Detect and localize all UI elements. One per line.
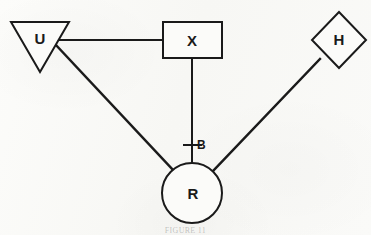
- figure-container: U X H R B FIGURE 11: [0, 0, 371, 235]
- edge-group: [55, 40, 320, 171]
- node-x-label: X: [184, 33, 200, 48]
- node-h-label: H: [331, 32, 347, 47]
- node-u-label: U: [32, 31, 48, 46]
- edge-h-r: [213, 59, 320, 171]
- node-r-label: R: [185, 186, 201, 201]
- edge-label-b: B: [197, 139, 206, 151]
- edge-u-r: [56, 45, 174, 171]
- figure-caption: FIGURE 11: [0, 226, 371, 235]
